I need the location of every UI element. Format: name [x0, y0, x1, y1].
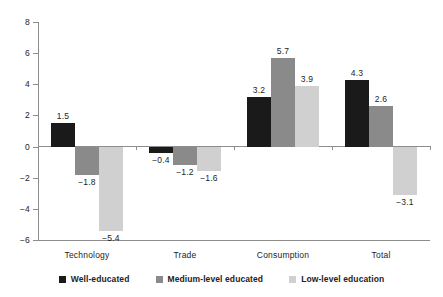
- bar-value-label: −3.1: [387, 197, 423, 207]
- x-axis-tick: [430, 146, 431, 150]
- y-axis-tick-label: −6: [6, 235, 30, 245]
- bar-total-well-educated: [345, 80, 369, 147]
- bar-total-medium-level-educated: [369, 106, 393, 146]
- bar-value-label: 4.3: [339, 68, 375, 78]
- bar-trade-well-educated: [149, 147, 173, 153]
- bar-consumption-well-educated: [247, 97, 271, 147]
- y-axis-tick: [33, 22, 38, 23]
- y-axis-tick: [33, 178, 38, 179]
- bar-total-low-level-education: [393, 147, 417, 195]
- x-axis-category-label: Consumption: [233, 250, 333, 260]
- legend-label: Medium-level educated: [168, 274, 264, 284]
- legend-item-medium-level-educated[interactable]: Medium-level educated: [156, 274, 264, 284]
- bar-value-label: 5.7: [265, 46, 301, 56]
- legend-label: Low-level education: [301, 274, 384, 284]
- bar-consumption-medium-level-educated: [271, 58, 295, 147]
- bar-value-label: 1.5: [45, 111, 81, 121]
- bar-value-label: 2.6: [363, 94, 399, 104]
- bar-technology-well-educated: [51, 123, 75, 146]
- y-axis-tick: [33, 115, 38, 116]
- x-axis-tick: [136, 146, 137, 150]
- x-axis-tick: [234, 146, 235, 150]
- y-axis-tick: [33, 240, 38, 241]
- y-axis-tick-label: 2: [6, 110, 30, 120]
- legend-label: Well-educated: [71, 274, 130, 284]
- legend-swatch-low-level-education-icon: [289, 276, 296, 283]
- y-axis-tick-label: −4: [6, 204, 30, 214]
- bar-trade-medium-level-educated: [173, 147, 197, 166]
- x-axis-tick: [38, 146, 39, 150]
- x-axis-tick: [332, 146, 333, 150]
- chart-legend: Well-educatedMedium-level educatedLow-le…: [0, 274, 443, 284]
- legend-item-well-educated[interactable]: Well-educated: [59, 274, 130, 284]
- x-axis-category-label: Trade: [135, 250, 235, 260]
- y-axis-tick-label: 0: [6, 142, 30, 152]
- legend-swatch-well-educated-icon: [59, 276, 66, 283]
- bar-technology-low-level-education: [99, 147, 123, 231]
- bar-consumption-low-level-education: [295, 86, 319, 147]
- y-axis-tick-label: 8: [6, 17, 30, 27]
- bar-value-label: −5.4: [93, 233, 129, 243]
- legend-swatch-medium-level-educated-icon: [156, 276, 163, 283]
- y-axis-tick-label: 4: [6, 79, 30, 89]
- y-axis-line: [38, 22, 39, 240]
- y-axis-tick: [33, 209, 38, 210]
- y-axis-tick: [33, 53, 38, 54]
- bar-value-label: 3.9: [289, 74, 325, 84]
- bar-chart: 86420−2−4−6 1.5−1.8−5.4−0.4−1.2−1.63.25.…: [0, 0, 443, 297]
- x-axis-category-label: Total: [331, 250, 431, 260]
- y-axis-tick-label: −2: [6, 173, 30, 183]
- bar-value-label: −1.6: [191, 173, 227, 183]
- y-axis-tick: [33, 84, 38, 85]
- bar-trade-low-level-education: [197, 147, 221, 172]
- bar-technology-medium-level-educated: [75, 147, 99, 175]
- x-axis-category-label: Technology: [37, 250, 137, 260]
- legend-item-low-level-education[interactable]: Low-level education: [289, 274, 384, 284]
- y-axis-tick-label: 6: [6, 48, 30, 58]
